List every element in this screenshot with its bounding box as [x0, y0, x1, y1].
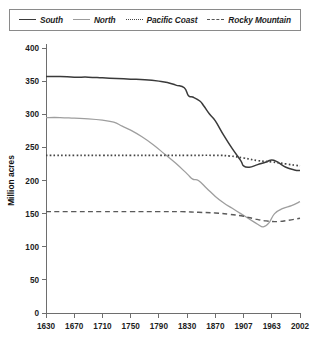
y-tick-label: 400 — [25, 44, 39, 53]
x-tick-label: 1710 — [93, 322, 112, 331]
x-tick-label: 1830 — [178, 322, 197, 331]
x-tick-label: 1963 — [263, 322, 282, 331]
series-group — [46, 76, 300, 226]
tick-labels-group: 4003503002502001501005001630167017101750… — [6, 44, 310, 331]
series-line-south — [46, 76, 300, 170]
y-tick-label: 250 — [25, 143, 39, 152]
axis-group — [42, 44, 300, 318]
y-tick-label: 350 — [25, 77, 39, 86]
x-tick-label: 1750 — [122, 322, 141, 331]
y-tick-label: 200 — [25, 177, 39, 186]
chart-container: South North Pacific Coast Rocky Mountain… — [0, 0, 314, 347]
x-tick-label: 2002 — [291, 322, 310, 331]
y-tick-label: 150 — [25, 210, 39, 219]
y-tick-label: 0 — [34, 309, 39, 318]
y-axis-title: Million acres — [6, 155, 16, 206]
x-tick-label: 1790 — [150, 322, 169, 331]
x-tick-label: 1870 — [206, 322, 225, 331]
x-tick-label: 1907 — [234, 322, 253, 331]
x-tick-label: 1630 — [37, 322, 56, 331]
y-tick-label: 300 — [25, 110, 39, 119]
series-line-rocky-mountain — [46, 212, 300, 222]
y-tick-label: 50 — [30, 276, 40, 285]
y-tick-label: 100 — [25, 243, 39, 252]
x-tick-label: 1670 — [65, 322, 84, 331]
plot-area: 4003503002502001501005001630167017101750… — [0, 0, 314, 347]
series-line-north — [46, 117, 300, 226]
